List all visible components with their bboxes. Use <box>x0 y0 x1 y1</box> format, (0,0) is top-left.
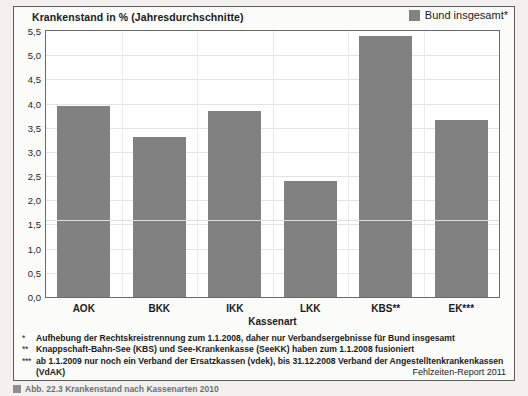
x-tick-label: EK*** <box>448 303 474 314</box>
y-tick-label: 1,5 <box>28 219 41 230</box>
footnote-marker: * <box>22 333 36 344</box>
y-tick-label: 3,5 <box>28 122 41 133</box>
bar-ek <box>435 120 488 297</box>
vertical-gridline <box>424 31 425 297</box>
footnote-text: Knappschaft-Bahn-See (KBS) und See-Krank… <box>36 344 506 355</box>
source-attribution: Fehlzeiten-Report 2011 <box>413 367 506 377</box>
y-tick-label: 2,0 <box>28 195 41 206</box>
x-tick-label: AOK <box>73 303 95 314</box>
x-tick-label: KBS** <box>371 303 400 314</box>
footnote-marker: ** <box>22 344 36 355</box>
chart-title: Krankenstand in % (Jahresdurchschnitte) <box>32 11 244 23</box>
y-tick-label: 5,0 <box>28 50 41 61</box>
footnote-marker: *** <box>22 356 36 367</box>
y-tick-label: 4,5 <box>28 74 41 85</box>
plot-area: 0,00,51,01,52,02,53,03,54,04,55,05,5 AOK… <box>45 30 500 298</box>
chart-legend: Bund insgesamt* <box>409 9 508 21</box>
bar-bkk <box>133 137 186 297</box>
vertical-gridline <box>197 31 198 297</box>
x-tick-label: LKK <box>300 303 321 314</box>
footnote: **Knappschaft-Bahn-See (KBS) und See-Kra… <box>22 344 506 355</box>
vertical-gridline <box>122 31 123 297</box>
y-tick-label: 5,5 <box>28 26 41 37</box>
y-tick-label: 0,0 <box>28 292 41 303</box>
footnote-text: Aufhebung der Rechtskreistrennung zum 1.… <box>36 333 506 344</box>
caption-marker-icon <box>13 385 21 393</box>
vertical-gridline <box>348 31 349 297</box>
y-tick-label: 0,5 <box>28 267 41 278</box>
chart-figure: Krankenstand in % (Jahresdurchschnitte) … <box>13 6 515 381</box>
figure-caption: Abb. 22.3 Krankenstand nach Kassenarten … <box>25 385 219 394</box>
x-tick-label: IKK <box>226 303 243 314</box>
y-tick-label: 3,0 <box>28 146 41 157</box>
y-tick-label: 1,0 <box>28 243 41 254</box>
reference-line-bund-insgesamt <box>46 220 499 221</box>
legend-swatch-icon <box>409 10 420 21</box>
x-axis-label: Kassenart <box>45 316 500 327</box>
chart-header: Krankenstand in % (Jahresdurchschnitte) … <box>14 7 514 29</box>
vertical-gridline <box>273 31 274 297</box>
figure-caption-strip: Abb. 22.3 Krankenstand nach Kassenarten … <box>13 385 515 396</box>
bar-aok <box>57 106 110 297</box>
x-tick-label: BKK <box>148 303 170 314</box>
scanned-page-background: Krankenstand in % (Jahresdurchschnitte) … <box>0 0 528 396</box>
y-tick-label: 4,0 <box>28 98 41 109</box>
bar-kbs <box>359 36 412 297</box>
footnote: *Aufhebung der Rechtskreistrennung zum 1… <box>22 333 506 344</box>
y-tick-label: 2,5 <box>28 171 41 182</box>
legend-label: Bund insgesamt* <box>425 9 508 21</box>
bar-lkk <box>284 181 337 297</box>
bar-ikk <box>208 111 261 297</box>
